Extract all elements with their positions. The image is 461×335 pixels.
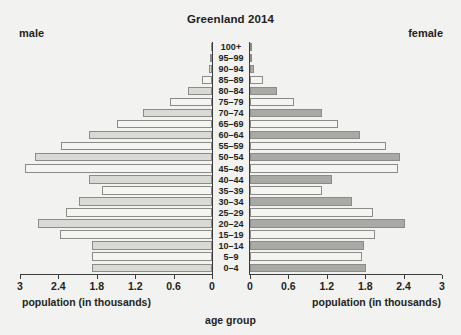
age-group-label: 50–54 (213, 152, 249, 162)
female-bar (250, 252, 362, 260)
female-bar (250, 175, 332, 183)
pyramid-row: 90–94 (0, 64, 461, 74)
male-bar (92, 264, 212, 272)
male-legend-label: male (19, 27, 44, 39)
age-group-label: 75–79 (213, 97, 249, 107)
age-group-label: 30–34 (213, 197, 249, 207)
female-axis-tick (365, 275, 366, 279)
pyramid-row: 45–49 (0, 164, 461, 174)
pyramid-row: 85–89 (0, 75, 461, 85)
male-bar (89, 175, 212, 183)
pyramid-row: 40–44 (0, 175, 461, 185)
female-bar (250, 98, 294, 106)
female-bar (250, 65, 254, 73)
center-rule-right (249, 42, 250, 274)
female-bar (250, 153, 400, 161)
male-axis-tick-label: 2.4 (38, 280, 78, 292)
age-group-label: 45–49 (213, 164, 249, 174)
male-axis-title: population (in thousands) (22, 296, 151, 308)
pyramid-row: 60–64 (0, 130, 461, 140)
male-axis-tick-label: 1.8 (77, 280, 117, 292)
pyramid-row: 15–19 (0, 230, 461, 240)
female-bar (250, 120, 338, 128)
age-group-label: 20–24 (213, 219, 249, 229)
male-bar (35, 153, 212, 161)
female-axis-tick-label: 3 (422, 280, 461, 292)
male-bar (60, 230, 212, 238)
age-group-label: 15–19 (213, 230, 249, 240)
pyramid-row: 70–74 (0, 108, 461, 118)
age-group-label: 60–64 (213, 130, 249, 140)
pyramid-row: 100+ (0, 42, 461, 52)
age-group-axis-title: age group (0, 314, 461, 326)
female-bar (250, 230, 375, 238)
male-axis-tick-label: 3 (0, 280, 40, 292)
pyramid-row: 95–99 (0, 53, 461, 63)
female-axis-tick (250, 275, 251, 279)
female-bar (250, 43, 252, 51)
female-bar (250, 142, 386, 150)
male-bar (92, 241, 212, 249)
pyramid-row: 10–14 (0, 241, 461, 251)
female-bar (250, 109, 322, 117)
pyramid-row: 55–59 (0, 141, 461, 151)
chart-title: Greenland 2014 (0, 13, 461, 25)
female-bar (250, 164, 398, 172)
female-bar (250, 197, 352, 205)
female-bar (250, 87, 277, 95)
female-bar (250, 208, 373, 216)
plot-area: 100+95–9990–9485–8980–8475–7970–7465–696… (0, 42, 461, 274)
female-bar (250, 76, 263, 84)
male-bar (66, 208, 212, 216)
male-bar (79, 197, 212, 205)
male-bar (170, 98, 212, 106)
age-group-label: 95–99 (213, 53, 249, 63)
female-bar (250, 241, 364, 249)
male-axis-tick (212, 275, 213, 279)
age-group-label: 10–14 (213, 241, 249, 251)
pyramid-row: 65–69 (0, 119, 461, 129)
male-bar (143, 109, 212, 117)
female-axis-tick (404, 275, 405, 279)
age-group-label: 25–29 (213, 208, 249, 218)
male-bar (25, 164, 212, 172)
male-axis-line (20, 274, 213, 275)
female-axis-tick-label: 2.4 (384, 280, 424, 292)
male-bar (92, 252, 212, 260)
pyramid-row: 50–54 (0, 152, 461, 162)
male-axis-tick-label: 0.6 (154, 280, 194, 292)
male-bar (102, 186, 212, 194)
female-bar (250, 131, 360, 139)
age-group-label: 65–69 (213, 119, 249, 129)
male-bar (202, 76, 212, 84)
pyramid-row: 5–9 (0, 252, 461, 262)
pyramid-row: 30–34 (0, 197, 461, 207)
male-axis-tick-label: 1.2 (115, 280, 155, 292)
male-bar (117, 120, 212, 128)
age-group-label: 35–39 (213, 186, 249, 196)
pyramid-row: 20–24 (0, 219, 461, 229)
pyramid-row: 80–84 (0, 86, 461, 96)
male-axis-tick (20, 275, 21, 279)
female-legend-label: female (408, 27, 443, 39)
male-bar (61, 142, 212, 150)
female-bar (250, 54, 252, 62)
female-bar (250, 186, 322, 194)
pyramid-row: 25–29 (0, 208, 461, 218)
age-group-label: 70–74 (213, 108, 249, 118)
age-group-label: 80–84 (213, 86, 249, 96)
female-axis-tick-label: 1.8 (345, 280, 385, 292)
male-bar (38, 219, 212, 227)
female-axis-tick (327, 275, 328, 279)
age-group-label: 85–89 (213, 75, 249, 85)
age-group-label: 5–9 (213, 252, 249, 262)
age-group-label: 90–94 (213, 64, 249, 74)
pyramid-row: 75–79 (0, 97, 461, 107)
age-group-label: 0–4 (213, 263, 249, 273)
female-axis-tick-label: 1.2 (307, 280, 347, 292)
pyramid-row: 35–39 (0, 186, 461, 196)
male-axis-tick (135, 275, 136, 279)
age-group-label: 55–59 (213, 141, 249, 151)
female-axis-tick (442, 275, 443, 279)
male-axis-tick (97, 275, 98, 279)
